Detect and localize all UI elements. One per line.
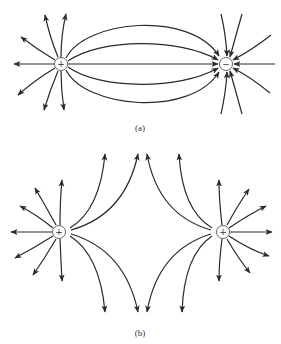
plus-sign: + <box>219 227 227 237</box>
field-lines-figure: + − (a) <box>0 0 281 344</box>
positive-charge: + <box>55 58 68 71</box>
right-charge-lines <box>147 154 272 312</box>
caption-a: (a) <box>135 123 145 133</box>
plus-sign: + <box>55 227 63 237</box>
minus-sign: − <box>222 59 230 69</box>
dipole-connecting-lines <box>66 25 219 102</box>
caption-b: (b) <box>135 328 146 338</box>
plus-sign: + <box>57 59 65 69</box>
left-charge-lines <box>11 154 138 312</box>
right-positive-charge: + <box>217 226 230 239</box>
left-positive-charge: + <box>53 226 66 239</box>
negative-charge: − <box>220 58 233 71</box>
panel-a: + − (a) <box>14 14 275 133</box>
panel-b: + + (b) <box>11 154 272 338</box>
